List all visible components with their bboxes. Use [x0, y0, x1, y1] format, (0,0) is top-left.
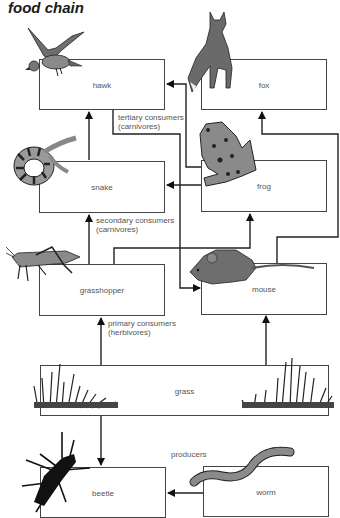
- note-secondary: secondary consumers (carnivores): [96, 216, 174, 234]
- note-tertiary: tertiary consumers (carnivores): [118, 113, 184, 131]
- note-secondary-title: secondary consumers: [96, 216, 174, 225]
- label-worm: worm: [204, 487, 328, 496]
- grasshopper-icon: [6, 247, 82, 287]
- note-primary: primary consumers (herbivores): [108, 319, 176, 337]
- beetle-icon: [22, 432, 94, 514]
- worm-icon: [190, 446, 294, 486]
- grass-left-icon: [34, 364, 118, 410]
- note-secondary-sub: (carnivores): [96, 225, 174, 234]
- hawk-icon: [22, 26, 86, 78]
- note-primary-title: primary consumers: [108, 319, 176, 328]
- note-tertiary-title: tertiary consumers: [118, 113, 184, 122]
- fox-icon: [188, 8, 250, 94]
- snake-icon: [8, 132, 80, 190]
- label-hawk: hawk: [40, 80, 164, 89]
- mouse-icon: [186, 246, 316, 288]
- grass-right-icon: [242, 358, 334, 410]
- note-primary-sub: (herbivores): [108, 328, 176, 337]
- frog-icon: [198, 120, 258, 190]
- note-tertiary-sub: (carnivores): [118, 122, 184, 131]
